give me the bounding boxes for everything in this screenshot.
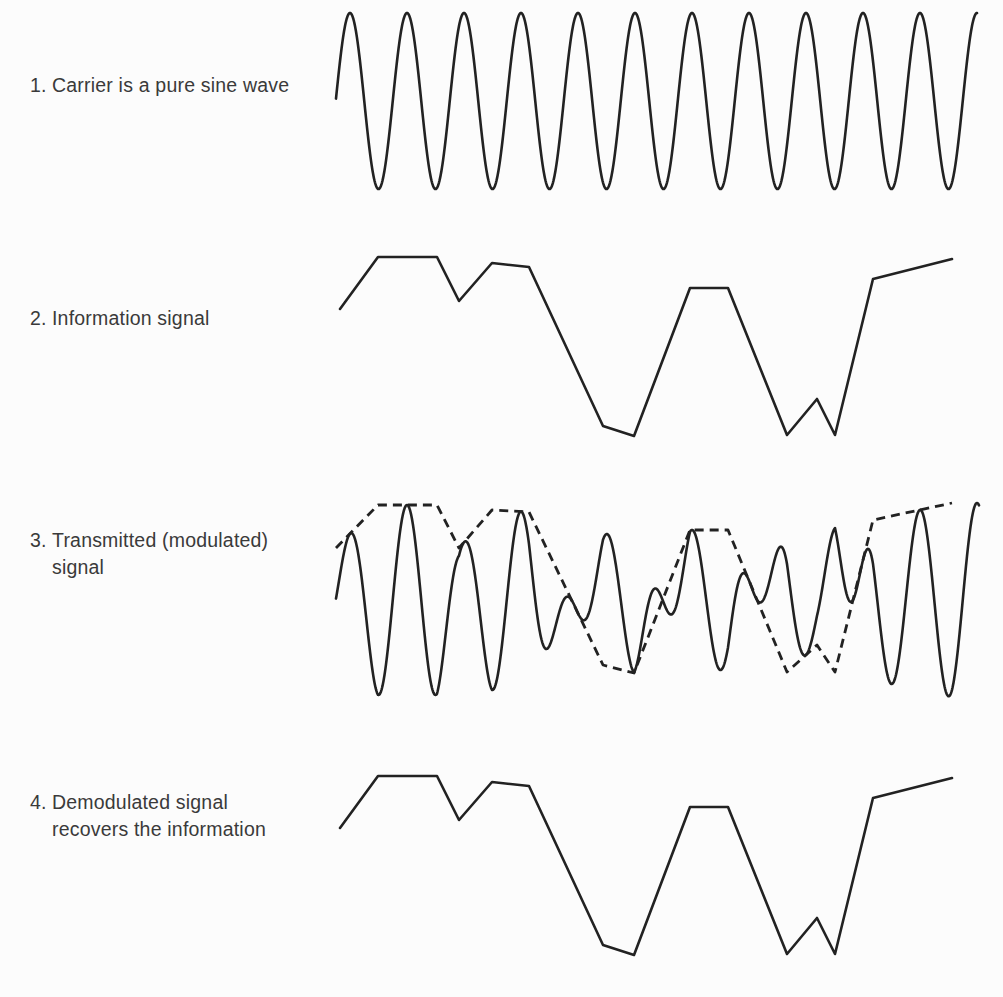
panel-label-modulated: 3.Transmitted (modulated) signal — [30, 500, 320, 581]
panel-text-1: Carrier is a pure sine wave — [52, 72, 302, 99]
carrier-waveform — [310, 0, 1003, 240]
panel-number-4: 4. — [30, 789, 52, 816]
panel-text-3: Transmitted (modulated) signal — [52, 527, 302, 581]
panel-modulated: 3.Transmitted (modulated) signal — [0, 490, 1003, 760]
panel-text-2: Information signal — [52, 305, 302, 332]
panel-label-information: 2.Information signal — [30, 278, 320, 332]
information-waveform — [310, 240, 1003, 490]
panel-label-carrier: 1.Carrier is a pure sine wave — [30, 45, 320, 99]
panel-number-1: 1. — [30, 72, 52, 99]
panel-label-demodulated: 4.Demodulated signal recovers the inform… — [30, 762, 320, 843]
am-modulation-figure: 1.Carrier is a pure sine wave 2.Informat… — [0, 0, 1003, 997]
panel-text-4: Demodulated signal recovers the informat… — [52, 789, 302, 843]
panel-carrier: 1.Carrier is a pure sine wave — [0, 0, 1003, 240]
panel-number-2: 2. — [30, 305, 52, 332]
panel-information: 2.Information signal — [0, 240, 1003, 490]
panel-demodulated: 4.Demodulated signal recovers the inform… — [0, 760, 1003, 997]
demodulated-waveform — [310, 760, 1003, 997]
panel-number-3: 3. — [30, 527, 52, 554]
modulated-waveform — [310, 490, 1003, 760]
